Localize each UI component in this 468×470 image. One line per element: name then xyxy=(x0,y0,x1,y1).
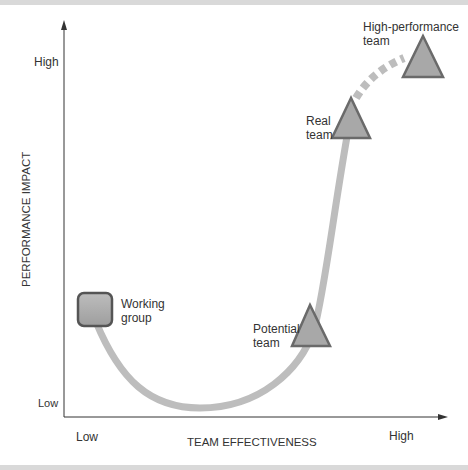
performance-curve-dashed xyxy=(356,58,404,98)
real-team-label-line2: team xyxy=(306,128,333,142)
potential-team-label: Potential team xyxy=(253,322,300,350)
x-axis-low-label: Low xyxy=(76,430,98,444)
working-group-label: Working group xyxy=(121,297,165,325)
potential-team-label-line1: Potential xyxy=(253,322,300,336)
high-performance-team-label-line2: team xyxy=(363,34,459,48)
x-axis-arrow-icon xyxy=(438,414,448,420)
x-axis-high-label: High xyxy=(389,429,414,443)
y-axis xyxy=(61,20,67,417)
diagram-canvas xyxy=(0,0,468,470)
real-team-label: Real team xyxy=(306,114,333,142)
working-group-label-line1: Working xyxy=(121,297,165,311)
high-performance-team-label-line1: High-performance xyxy=(363,20,459,34)
real-team-label-line1: Real xyxy=(306,114,333,128)
y-axis-high-label: High xyxy=(34,55,59,69)
high-performance-team-label: High-performance team xyxy=(363,20,459,48)
x-axis-title: TEAM EFFECTIVENESS xyxy=(187,436,317,448)
potential-team-label-line2: team xyxy=(253,336,300,350)
y-axis-low-label: Low xyxy=(38,396,58,410)
working-group-node xyxy=(78,293,112,326)
performance-curve xyxy=(96,120,350,408)
working-group-label-line2: group xyxy=(121,311,165,325)
y-axis-arrow-icon xyxy=(61,20,67,30)
y-axis-title: PERFORMANCE IMPACT xyxy=(20,152,32,287)
x-axis xyxy=(64,414,448,420)
real-team-node xyxy=(332,98,370,138)
